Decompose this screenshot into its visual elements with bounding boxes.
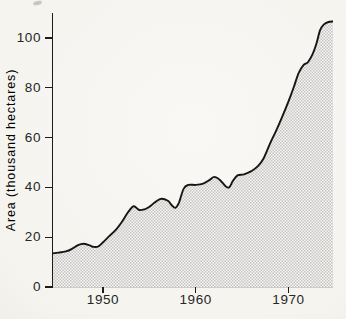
y-tick-label: 100: [7, 30, 41, 46]
y-axis-line: [52, 13, 53, 288]
x-tick-label: 1970: [266, 292, 312, 308]
y-tick-mark: [45, 286, 52, 287]
y-tick-mark: [45, 187, 52, 188]
y-tick-label: 20: [7, 229, 41, 245]
y-tick-label: 80: [7, 80, 41, 96]
y-tick-label: 60: [7, 130, 41, 146]
x-axis-baseline: [52, 287, 333, 288]
y-tick-label: 0: [7, 279, 41, 295]
y-tick-mark: [45, 37, 52, 38]
print-smudge-artifact: [33, 0, 43, 6]
y-tick-mark: [45, 237, 52, 238]
y-tick-mark: [45, 137, 52, 138]
y-tick-label: 40: [7, 179, 41, 195]
x-tick-label: 1950: [80, 292, 126, 308]
x-tick-label: 1960: [173, 292, 219, 308]
area-chart-figure: Area (thousand hectares) 020406080100 19…: [0, 0, 346, 319]
y-tick-mark: [45, 87, 52, 88]
plot-area: [52, 13, 333, 287]
